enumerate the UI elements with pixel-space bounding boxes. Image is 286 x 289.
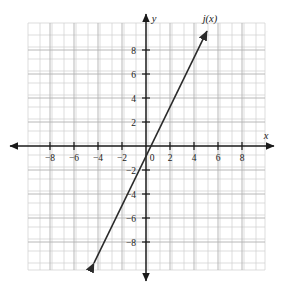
x-tick-label-neg4: −4	[93, 153, 103, 163]
x-tick-label-4: 4	[192, 153, 197, 163]
x-tick-label-neg8: −8	[45, 153, 55, 163]
y-tick-label-8: 8	[131, 46, 136, 56]
y-tick-label-2: 2	[131, 118, 136, 128]
y-axis-label: y	[151, 13, 157, 24]
function-label-j: j(x)	[201, 13, 218, 25]
x-tick-label-neg2: −2	[117, 153, 127, 163]
y-tick-label-neg8: −8	[126, 238, 136, 248]
x-tick-label-2: 2	[168, 153, 173, 163]
x-tick-label-neg6: −6	[69, 153, 79, 163]
coordinate-plane-figure: −8 −6 −4 −2 2 4 6 8 0 8 6 4 2 −2 −4 −6 −…	[0, 0, 286, 289]
y-tick-label-neg2: −2	[126, 166, 136, 176]
x-tick-label-6: 6	[216, 153, 221, 163]
x-axis-label: x	[263, 130, 269, 141]
x-tick-label-8: 8	[240, 153, 245, 163]
function-line-j	[94, 31, 207, 263]
origin-label: 0	[150, 153, 155, 163]
graph-canvas: −8 −6 −4 −2 2 4 6 8 0 8 6 4 2 −2 −4 −6 −…	[0, 0, 286, 289]
y-tick-label-4: 4	[131, 94, 136, 104]
y-tick-label-6: 6	[131, 70, 136, 80]
y-tick-label-neg6: −6	[126, 214, 136, 224]
